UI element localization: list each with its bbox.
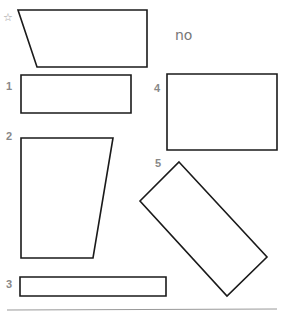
rectangle-3: [20, 277, 166, 296]
trapezoid-2: [21, 138, 113, 258]
label-5: 5: [155, 158, 161, 169]
label-1: 1: [6, 81, 12, 92]
label-4: 4: [154, 83, 160, 94]
example-trapezoid: [18, 10, 147, 67]
label-2: 2: [6, 131, 12, 142]
label-3: 3: [6, 279, 12, 290]
rectangle-4: [167, 74, 277, 150]
example-answer: no: [175, 28, 192, 42]
rectangle-1: [21, 75, 131, 113]
star-icon: ☆: [3, 12, 13, 23]
rotated-rectangle-5: [140, 162, 267, 296]
shapes-canvas: [0, 0, 282, 312]
bottom-rule: [7, 309, 277, 310]
